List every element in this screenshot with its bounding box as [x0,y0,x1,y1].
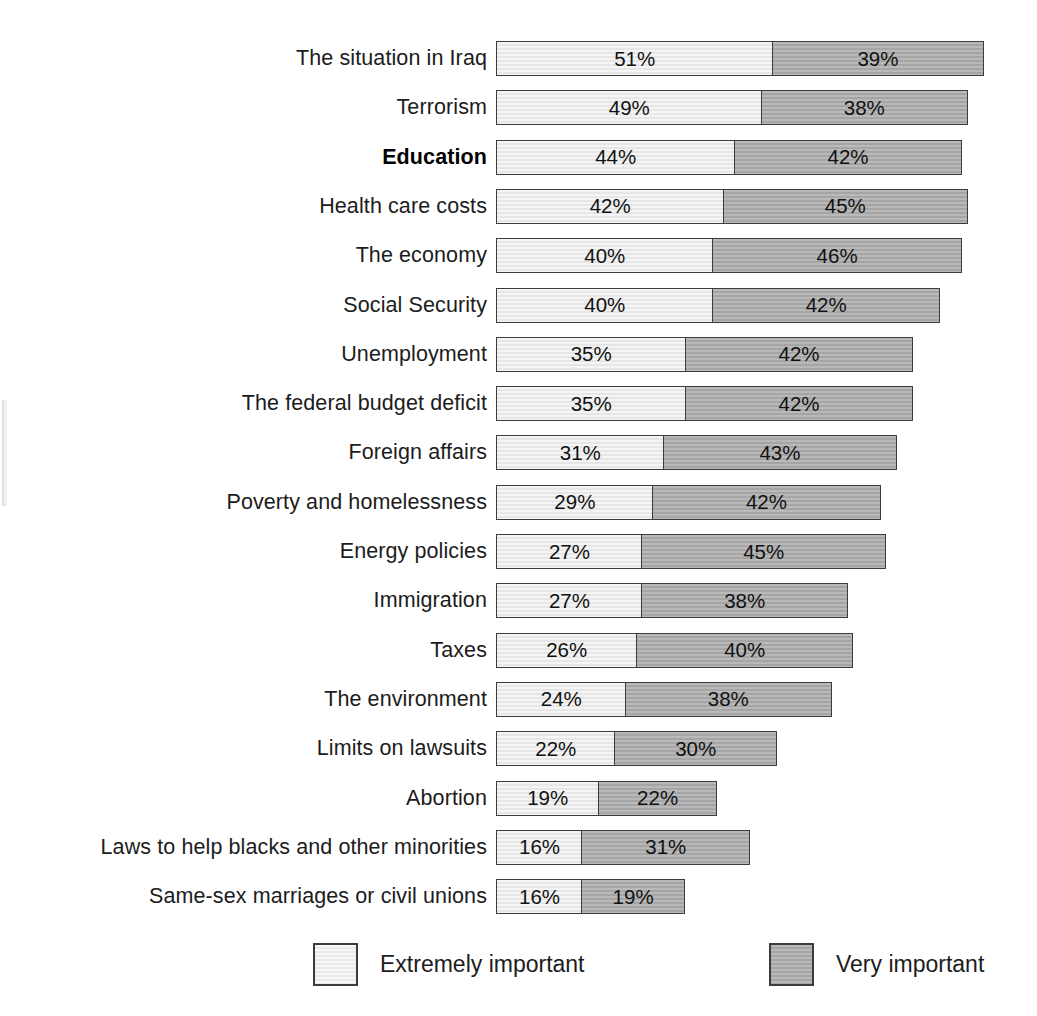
stacked-bar: 44%42% [496,140,962,175]
category-label: Health care costs [319,189,487,224]
bar-segment-very-important: 39% [772,41,984,76]
bar-segment-very-important: 19% [581,879,684,914]
bar-segment-extremely-important: 16% [496,879,583,914]
bar-value-very-important: 19% [613,885,654,909]
bar-segment-very-important: 38% [625,682,832,717]
bar-segment-extremely-important: 16% [496,830,583,865]
chart-legend: Extremely important Very important [0,941,1037,991]
stacked-bar: 42%45% [496,189,968,224]
chart-row: Poverty and homelessness29%42% [0,485,1037,520]
bar-value-very-important: 38% [708,687,749,711]
bar-segment-extremely-important: 27% [496,583,643,618]
bar-value-very-important: 31% [645,835,686,859]
bar-segment-extremely-important: 19% [496,781,599,816]
chart-row: Social Security40%42% [0,288,1037,323]
bar-segment-very-important: 45% [641,534,886,569]
stacked-bar: 16%19% [496,879,685,914]
bar-value-very-important: 38% [724,589,765,613]
bar-segment-very-important: 42% [734,140,962,175]
bar-segment-extremely-important: 22% [496,731,616,766]
stacked-bar: 51%39% [496,41,984,76]
legend-item-very-important[interactable]: Very important [769,941,984,987]
bar-value-extremely-important: 51% [614,47,655,71]
bar-value-very-important: 40% [724,638,765,662]
chart-row: The economy40%46% [0,238,1037,273]
bar-segment-very-important: 31% [581,830,750,865]
bar-segment-extremely-important: 35% [496,386,686,421]
category-label: Education [382,140,487,175]
category-label: Poverty and homelessness [226,485,487,520]
bar-value-extremely-important: 44% [595,145,636,169]
bar-segment-extremely-important: 26% [496,633,637,668]
category-label: The federal budget deficit [242,386,487,421]
bar-value-extremely-important: 22% [535,737,576,761]
stacked-bar: 49%38% [496,90,968,125]
bar-value-very-important: 42% [827,145,868,169]
bar-segment-extremely-important: 40% [496,288,714,323]
bar-value-extremely-important: 27% [549,589,590,613]
stacked-bar: 24%38% [496,682,832,717]
bar-value-extremely-important: 16% [519,885,560,909]
bar-segment-extremely-important: 49% [496,90,763,125]
stacked-bar: 27%38% [496,583,848,618]
bar-value-very-important: 42% [779,342,820,366]
legend-label-very-important: Very important [836,951,984,978]
stacked-bar-chart: The situation in Iraq51%39%Terrorism49%3… [0,0,1037,1016]
bar-segment-very-important: 42% [652,485,880,520]
chart-row: Same-sex marriages or civil unions16%19% [0,879,1037,914]
stacked-bar: 40%42% [496,288,940,323]
bar-value-very-important: 38% [844,96,885,120]
bar-segment-very-important: 22% [598,781,718,816]
bar-value-very-important: 42% [806,293,847,317]
bar-segment-very-important: 46% [712,238,962,273]
category-label: Social Security [343,288,487,323]
chart-row: The federal budget deficit35%42% [0,386,1037,421]
bar-segment-extremely-important: 29% [496,485,654,520]
bar-segment-very-important: 38% [641,583,848,618]
bar-segment-very-important: 38% [761,90,968,125]
bar-segment-very-important: 42% [685,386,913,421]
bar-value-very-important: 45% [743,540,784,564]
bar-value-very-important: 46% [817,244,858,268]
chart-row: The environment24%38% [0,682,1037,717]
category-label: Unemployment [341,337,487,372]
stacked-bar: 31%43% [496,435,897,470]
bar-segment-extremely-important: 51% [496,41,773,76]
bar-segment-extremely-important: 24% [496,682,627,717]
bar-value-extremely-important: 35% [571,392,612,416]
bar-value-very-important: 22% [637,786,678,810]
chart-row: Immigration27%38% [0,583,1037,618]
bar-value-extremely-important: 26% [546,638,587,662]
stacked-bar: 35%42% [496,386,913,421]
category-label: Limits on lawsuits [317,731,487,766]
category-label: Energy policies [340,534,487,569]
stacked-bar: 26%40% [496,633,853,668]
bar-value-extremely-important: 35% [571,342,612,366]
bar-value-extremely-important: 31% [560,441,601,465]
chart-row: Health care costs42%45% [0,189,1037,224]
category-label: Immigration [374,583,487,618]
bar-value-extremely-important: 40% [584,293,625,317]
legend-item-extremely-important[interactable]: Extremely important [313,941,585,987]
bar-segment-very-important: 42% [712,288,940,323]
chart-row: Education44%42% [0,140,1037,175]
bar-segment-very-important: 42% [685,337,913,372]
category-label: Terrorism [397,90,487,125]
bar-value-extremely-important: 16% [519,835,560,859]
bar-segment-very-important: 43% [663,435,897,470]
bar-segment-extremely-important: 40% [496,238,714,273]
chart-row: Taxes26%40% [0,633,1037,668]
bar-value-extremely-important: 40% [584,244,625,268]
category-label: The situation in Iraq [296,41,487,76]
legend-swatch-extremely-important [313,943,358,986]
category-label: Taxes [430,633,487,668]
chart-row: Energy policies27%45% [0,534,1037,569]
chart-row: Foreign affairs31%43% [0,435,1037,470]
bar-value-very-important: 42% [746,490,787,514]
bar-value-very-important: 43% [759,441,800,465]
chart-row: Terrorism49%38% [0,90,1037,125]
bar-value-extremely-important: 19% [527,786,568,810]
legend-label-extremely-important: Extremely important [380,951,585,978]
bar-value-very-important: 42% [779,392,820,416]
stacked-bar: 29%42% [496,485,881,520]
